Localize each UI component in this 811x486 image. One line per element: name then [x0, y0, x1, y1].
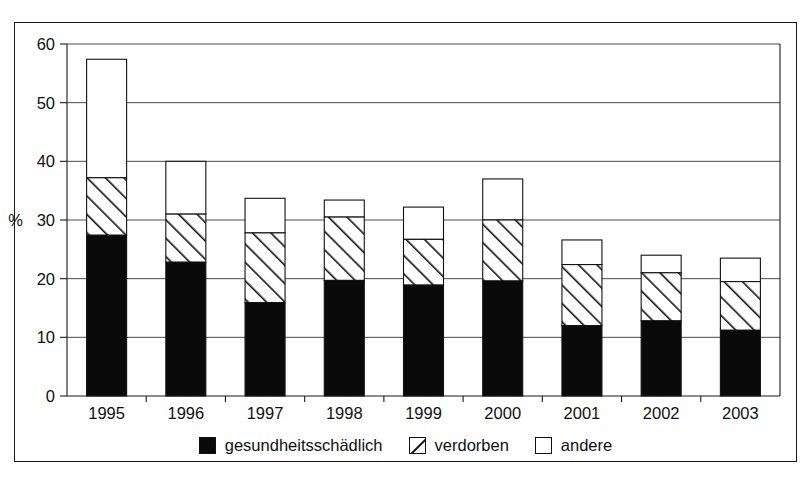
bar-segment-gesundheitsschaedlich — [404, 285, 444, 396]
y-tick-label: 60 — [37, 35, 55, 53]
bar-segment-verdorben — [404, 239, 444, 285]
x-axis-category-label: 1995 — [88, 404, 125, 422]
x-axis-category-label: 1997 — [247, 404, 284, 422]
bar-segment-andere — [324, 200, 364, 217]
y-axis-ticks: 0102030405060 — [37, 35, 67, 405]
y-axis-unit-label: % — [8, 211, 23, 229]
bar-segment-andere — [166, 161, 206, 214]
bar-segment-andere — [720, 258, 760, 281]
legend-item-gesundheitsschaedlich: gesundheitsschädlich — [199, 436, 383, 455]
y-tick-label: 30 — [37, 211, 55, 229]
x-axis-category-label: 1999 — [405, 404, 442, 422]
bar-segment-andere — [562, 240, 602, 265]
y-tick-label: 20 — [37, 270, 55, 288]
y-tick-label: 0 — [46, 387, 55, 405]
bar-segment-verdorben — [87, 178, 127, 235]
legend-item-verdorben: verdorben — [409, 436, 509, 455]
y-tick-label: 50 — [37, 94, 55, 112]
bar-segment-gesundheitsschaedlich — [641, 321, 681, 396]
legend-label-andere: andere — [561, 436, 612, 455]
y-axis-title: % — [8, 211, 23, 229]
bar-segment-verdorben — [641, 273, 681, 321]
bar-segment-verdorben — [166, 214, 206, 262]
bar-segment-verdorben — [245, 233, 285, 303]
legend-swatch-hatch-icon — [409, 437, 426, 454]
bars-group — [87, 59, 761, 396]
bar-segment-verdorben — [483, 220, 523, 281]
chart-legend: gesundheitsschädlich verdorben andere — [14, 428, 797, 462]
x-axis-category-label: 2001 — [564, 404, 601, 422]
x-axis-category-label: 2000 — [484, 404, 521, 422]
bar-segment-andere — [641, 255, 681, 273]
legend-swatch-white-icon — [535, 437, 552, 454]
bar-segment-gesundheitsschaedlich — [483, 281, 523, 396]
x-axis-labels: 199519961997199819992000200120022003 — [88, 396, 758, 422]
y-tick-label: 40 — [37, 152, 55, 170]
legend-label-verdorben: verdorben — [435, 436, 509, 455]
bar-segment-gesundheitsschaedlich — [166, 262, 206, 396]
x-axis-category-label: 2002 — [643, 404, 680, 422]
legend-label-gesundheitsschaedlich: gesundheitsschädlich — [225, 436, 383, 455]
bar-segment-verdorben — [562, 265, 602, 326]
bar-segment-gesundheitsschaedlich — [324, 280, 364, 396]
x-axis-category-label: 1996 — [167, 404, 204, 422]
legend-swatch-black-icon — [199, 437, 216, 454]
legend-item-andere: andere — [535, 436, 612, 455]
bar-chart: 0102030405060 19951996199719981999200020… — [0, 0, 811, 486]
bar-segment-gesundheitsschaedlich — [562, 326, 602, 396]
x-axis-category-label: 1998 — [326, 404, 363, 422]
x-axis-category-label: 2003 — [722, 404, 759, 422]
bar-segment-andere — [87, 59, 127, 178]
chart-area: 0102030405060 19951996199719981999200020… — [0, 0, 811, 486]
bar-segment-verdorben — [324, 217, 364, 280]
bar-segment-gesundheitsschaedlich — [720, 330, 760, 396]
bar-segment-gesundheitsschaedlich — [87, 235, 127, 396]
bar-segment-verdorben — [720, 282, 760, 331]
bar-segment-andere — [245, 198, 285, 233]
bar-segment-gesundheitsschaedlich — [245, 303, 285, 396]
bar-segment-andere — [483, 179, 523, 220]
bar-segment-andere — [404, 207, 444, 239]
y-tick-label: 10 — [37, 328, 55, 346]
